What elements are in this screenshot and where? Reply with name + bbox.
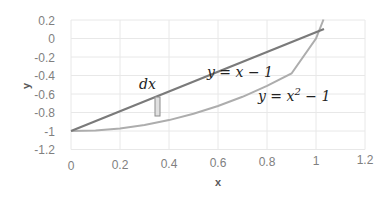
y-tick: -0.8 xyxy=(34,106,55,120)
line-equation-label: y = x − 1 xyxy=(206,64,273,80)
y-tick: -0.2 xyxy=(34,51,55,65)
parabola-eq-base: y = x xyxy=(257,88,295,104)
x-tick: 0 xyxy=(68,159,75,173)
dx-strip xyxy=(155,97,160,116)
parabola-equation-label: y = x2 − 1 xyxy=(257,86,330,104)
x-tick: 0.6 xyxy=(210,156,227,170)
gridlines xyxy=(71,20,365,150)
x-tick: 1.2 xyxy=(357,153,374,167)
y-tick: -0.6 xyxy=(34,88,55,102)
x-axis-title: x xyxy=(215,176,222,188)
x-tick: 1 xyxy=(313,154,320,168)
parabola-eq-tail: − 1 xyxy=(301,88,331,104)
y-tick: -1 xyxy=(44,125,55,139)
series-line xyxy=(71,29,324,131)
x-tick: 0.4 xyxy=(161,157,178,171)
chart: 0.2 0 -0.2 -0.4 -0.6 -0.8 -1 -1.2 0 0.2 … xyxy=(0,0,389,201)
x-tick: 0.8 xyxy=(259,155,276,169)
y-axis-title: y xyxy=(20,82,32,89)
y-tick: -1.2 xyxy=(34,143,55,157)
x-axis-ticks: 0 0.2 0.4 0.6 0.8 1 1.2 xyxy=(68,153,374,173)
y-tick: -0.4 xyxy=(34,69,55,83)
y-tick: 0 xyxy=(48,32,55,46)
x-tick: 0.2 xyxy=(112,158,129,172)
y-tick: 0.2 xyxy=(38,14,55,28)
parabola-eq-sup: 2 xyxy=(293,86,300,97)
y-axis-ticks: 0.2 0 -0.2 -0.4 -0.6 -0.8 -1 -1.2 xyxy=(34,14,55,157)
dx-label: dx xyxy=(139,76,156,92)
